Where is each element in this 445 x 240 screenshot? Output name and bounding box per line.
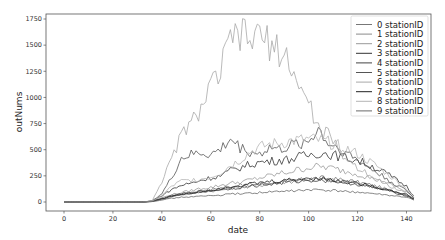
- legend: 0 stationID1 stationID2 stationID3 stati…: [351, 16, 428, 116]
- x-axis-ticks: 020406080100120140: [62, 211, 413, 223]
- x-tick-label: 80: [256, 215, 264, 223]
- legend-label: 0 stationID: [377, 20, 424, 30]
- y-tick-label: 750: [30, 120, 42, 128]
- y-tick-label: 1500: [25, 41, 42, 49]
- y-axis-ticks: 02505007501000125015001750: [25, 15, 46, 206]
- legend-label: 1 stationID: [377, 29, 424, 39]
- y-axis-label: outNums: [14, 91, 24, 132]
- y-tick-label: 0: [38, 198, 42, 206]
- legend-label: 9 stationID: [377, 106, 424, 116]
- x-tick-label: 40: [158, 215, 166, 223]
- x-tick-label: 0: [62, 215, 66, 223]
- y-tick-label: 500: [30, 146, 42, 154]
- legend-label: 5 stationID: [377, 68, 424, 78]
- y-tick-label: 1250: [25, 68, 42, 76]
- legend-label: 7 stationID: [377, 87, 424, 97]
- legend-label: 4 stationID: [377, 58, 424, 68]
- x-tick-label: 20: [109, 215, 117, 223]
- y-tick-label: 1750: [25, 15, 42, 23]
- x-tick-label: 100: [302, 215, 314, 223]
- x-tick-label: 120: [351, 215, 363, 223]
- x-axis-label: date: [228, 225, 249, 235]
- legend-label: 2 stationID: [377, 39, 424, 49]
- x-tick-label: 140: [400, 215, 412, 223]
- legend-label: 6 stationID: [377, 77, 424, 87]
- y-tick-label: 250: [30, 172, 42, 180]
- y-tick-label: 1000: [25, 94, 42, 102]
- x-tick-label: 60: [207, 215, 215, 223]
- legend-label: 3 stationID: [377, 48, 424, 58]
- legend-label: 8 stationID: [377, 96, 424, 106]
- line-chart: 020406080100120140 025050075010001250150…: [0, 0, 445, 240]
